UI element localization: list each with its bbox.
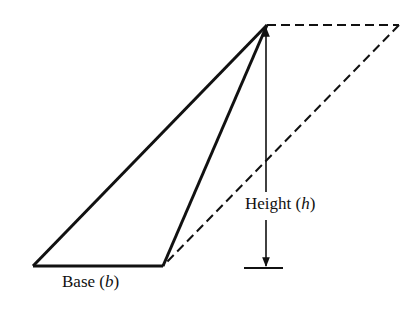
triangle-right-side (163, 25, 267, 266)
height-label-text: Height (245, 194, 291, 213)
base-label-text: Base (62, 272, 95, 291)
base-variable: b (105, 272, 114, 291)
diagram-canvas (0, 0, 416, 312)
height-label: Height (h) (245, 194, 315, 214)
triangle-left-side (33, 25, 267, 266)
triangle-area-diagram: Height (h) Base (b) (0, 0, 416, 312)
base-label: Base (b) (62, 272, 119, 292)
dashed-right-edge (163, 25, 399, 266)
height-variable: h (301, 194, 310, 213)
